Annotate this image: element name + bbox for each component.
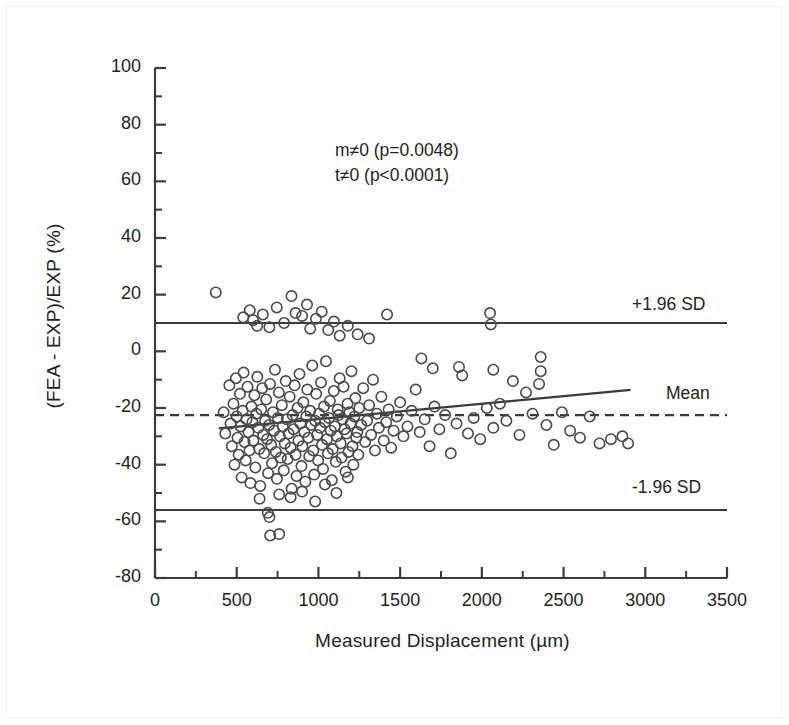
data-point: [270, 365, 280, 375]
data-point: [424, 441, 434, 451]
mean-label: Mean: [666, 383, 710, 404]
data-point: [527, 408, 537, 418]
data-point: [325, 396, 335, 406]
data-point: [514, 430, 524, 440]
data-point: [395, 397, 405, 407]
data-point: [289, 380, 299, 390]
data-point: [286, 291, 296, 301]
data-point: [565, 425, 575, 435]
y-tick-label-5: 0: [59, 339, 141, 360]
data-point: [232, 411, 242, 421]
data-point: [486, 319, 496, 329]
data-point: [294, 369, 304, 379]
data-point: [501, 416, 511, 426]
data-point: [488, 423, 498, 433]
data-point: [594, 438, 604, 448]
data-point: [508, 376, 518, 386]
data-point: [318, 464, 328, 474]
data-point: [279, 465, 289, 475]
data-point: [228, 399, 238, 409]
data-point: [350, 393, 360, 403]
data-point: [274, 489, 284, 499]
data-point: [534, 379, 544, 389]
data-point: [429, 401, 439, 411]
data-point: [261, 394, 271, 404]
data-point: [549, 440, 559, 450]
data-point: [245, 478, 255, 488]
bland-altman-plot: m≠0 (p=0.0048) t≠0 (p<0.0001) +1.96 SD M…: [0, 0, 789, 725]
data-point: [277, 400, 287, 410]
x-axis-label: Measured Displacement (µm): [155, 630, 730, 652]
data-point: [388, 425, 398, 435]
x-tick-label-0: 0: [115, 590, 195, 611]
data-point: [463, 428, 473, 438]
data-point: [488, 365, 498, 375]
data-point: [258, 309, 268, 319]
data-point: [334, 331, 344, 341]
data-point: [434, 424, 444, 434]
data-point: [419, 414, 429, 424]
data-point: [416, 353, 426, 363]
x-tick-label-1: 500: [197, 590, 277, 611]
data-point: [348, 459, 358, 469]
data-point: [376, 391, 386, 401]
data-point: [311, 389, 321, 399]
slope-test-text: m≠0 (p=0.0048): [335, 138, 459, 163]
y-tick-label-4: 20: [59, 283, 141, 304]
data-point: [244, 445, 254, 455]
statistical-annotation: m≠0 (p=0.0048) t≠0 (p<0.0001): [335, 138, 459, 188]
y-tick-label-2: 60: [59, 169, 141, 190]
scatter-points: [211, 287, 634, 541]
data-point: [358, 383, 368, 393]
data-point: [310, 496, 320, 506]
data-point: [485, 308, 495, 318]
upper-sd-label: +1.96 SD: [632, 294, 705, 315]
data-point: [307, 360, 317, 370]
data-point: [415, 427, 425, 437]
data-point: [321, 356, 331, 366]
x-tick-label-4: 2000: [442, 590, 522, 611]
data-point: [354, 403, 364, 413]
data-point: [211, 287, 221, 297]
y-tick-label-1: 80: [59, 113, 141, 134]
data-point: [254, 493, 264, 503]
data-point: [316, 377, 326, 387]
data-point: [585, 411, 595, 421]
data-point: [410, 384, 420, 394]
data-point: [329, 386, 339, 396]
data-point: [475, 434, 485, 444]
data-point: [381, 417, 391, 427]
data-point: [297, 486, 307, 496]
x-tick-label-6: 3000: [605, 590, 685, 611]
y-tick-label-9: -80: [59, 566, 141, 587]
data-point: [238, 367, 248, 377]
x-tick-label-7: 3500: [687, 590, 767, 611]
data-point: [402, 421, 412, 431]
y-tick-label-0: 100: [59, 56, 141, 77]
y-tick-label-8: -60: [59, 509, 141, 530]
data-point: [370, 445, 380, 455]
data-point: [368, 374, 378, 384]
data-point: [398, 431, 408, 441]
data-point: [245, 305, 255, 315]
x-tick-label-5: 2500: [524, 590, 604, 611]
data-point: [241, 455, 251, 465]
data-point: [284, 391, 294, 401]
data-point: [331, 488, 341, 498]
data-point: [374, 423, 384, 433]
data-point: [316, 306, 326, 316]
chart-canvas: [0, 0, 789, 725]
data-point: [575, 433, 585, 443]
data-point: [521, 387, 531, 397]
y-axis-label: (FEA - EXP)/EXP (%): [43, 166, 65, 466]
data-point: [272, 302, 282, 312]
data-point: [623, 438, 633, 448]
data-point: [382, 309, 392, 319]
x-tick-label-2: 1000: [278, 590, 358, 611]
y-tick-label-7: -40: [59, 453, 141, 474]
data-point: [329, 316, 339, 326]
data-point: [353, 450, 363, 460]
data-point: [302, 299, 312, 309]
x-tick-label-3: 1500: [360, 590, 440, 611]
data-point: [352, 329, 362, 339]
